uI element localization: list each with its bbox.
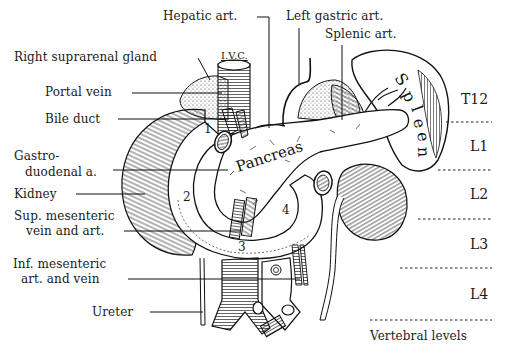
label-ivc: I.V.C. bbox=[221, 49, 248, 62]
label-sup-mesenteric-line2: vein and art. bbox=[26, 225, 104, 238]
level-l4: L4 bbox=[470, 286, 488, 302]
duodenum-part-2: 2 bbox=[183, 190, 191, 204]
level-t12: T12 bbox=[461, 91, 488, 107]
duodenum-part-4: 4 bbox=[282, 203, 290, 217]
label-splenic-art: Splenic art. bbox=[325, 28, 397, 41]
label-right-suprarenal-gland: Right suprarenal gland bbox=[14, 51, 157, 64]
label-inf-mesenteric-line2: art. and vein bbox=[21, 273, 99, 286]
anatomy-diagram: Pancreas bbox=[0, 0, 505, 357]
label-ureter: Ureter bbox=[92, 306, 133, 319]
label-sup-mesenteric-line1: Sup. mesenteric bbox=[14, 210, 114, 223]
vertebral-levels-caption: Vertebral levels bbox=[370, 330, 467, 343]
duodenum-part-1: 1 bbox=[204, 122, 212, 136]
label-bile-duct: Bile duct bbox=[45, 113, 100, 126]
label-portal-vein: Portal vein bbox=[45, 86, 112, 99]
svg-text:n: n bbox=[414, 146, 433, 157]
label-kidney: Kidney bbox=[14, 188, 57, 201]
aorta-lower bbox=[212, 258, 300, 337]
right-ureter bbox=[200, 258, 205, 325]
level-l3: L3 bbox=[470, 236, 488, 252]
duodenum-part-3: 3 bbox=[238, 240, 246, 254]
level-l2: L2 bbox=[470, 186, 488, 202]
level-l1: L1 bbox=[470, 138, 488, 154]
label-gastroduodenal-line1: Gastro- bbox=[14, 150, 59, 163]
label-gastroduodenal-line2: duodenal a. bbox=[25, 166, 97, 179]
label-hepatic-art: Hepatic art. bbox=[163, 10, 237, 23]
label-left-gastric-art: Left gastric art. bbox=[286, 10, 383, 23]
label-inf-mesenteric-line1: Inf. mesenteric bbox=[13, 258, 106, 271]
left-kidney bbox=[337, 164, 407, 240]
